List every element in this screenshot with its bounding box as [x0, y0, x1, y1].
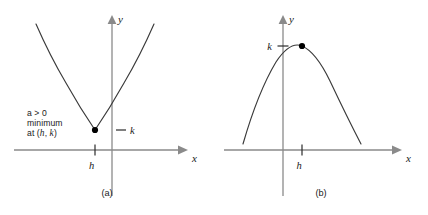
- caption-a: (a): [0, 188, 214, 198]
- annotation-a-line3: at (h, k): [27, 128, 63, 139]
- y-axis-label-b: y: [288, 13, 294, 25]
- h-tick-label-a: h: [89, 160, 94, 171]
- k-tick-label-b: k: [267, 41, 272, 52]
- y-axis-arrowhead-a: [108, 15, 117, 24]
- panel-a-minimum: x y h k a > 0 minimum at (h, k): [0, 0, 214, 215]
- annotation-a-suffix: ): [54, 128, 57, 138]
- vertex-point-b: [299, 43, 305, 49]
- annotation-a: a > 0 minimum at (h, k): [27, 108, 63, 139]
- h-tick-label-b: h: [296, 160, 301, 171]
- annotation-a-at-prefix: at (: [27, 128, 40, 138]
- parabola-figure: x y h k a > 0 minimum at (h, k): [0, 0, 428, 215]
- panel-b-graph: x y h k: [214, 0, 428, 215]
- k-tick-label-a: k: [130, 125, 135, 136]
- x-axis-arrowhead-b: [392, 146, 402, 155]
- x-axis-label-a: x: [191, 152, 197, 164]
- parabola-curve-b: [243, 45, 361, 144]
- annotation-a-line2: minimum: [27, 118, 63, 128]
- y-axis-label-a: y: [117, 13, 123, 25]
- x-axis-arrowhead-a: [178, 146, 188, 155]
- caption-b: (b): [214, 188, 428, 198]
- x-axis-label-b: x: [405, 152, 411, 164]
- annotation-a-line1: a > 0: [27, 108, 63, 118]
- y-axis-arrowhead-b: [279, 15, 288, 24]
- panel-b-maximum: x y h k a < 0 maximum at (h, k): [214, 0, 428, 215]
- vertex-point-a: [92, 127, 98, 133]
